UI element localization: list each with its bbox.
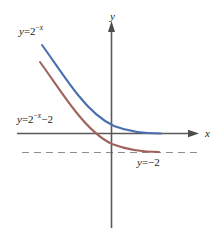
blue-label-exponent: −x [36, 23, 44, 32]
asymptote-equation-label: y=−2 [137, 157, 160, 168]
exponential-function-graph: y=2−x y=2−x−2 y=−2 y x [0, 0, 221, 228]
red-curve-equation-label: y=2−x−2 [17, 114, 53, 125]
y-axis-arrowhead [108, 21, 115, 32]
blue-label-exponent-var: x [40, 23, 43, 32]
asymptote-label-value: −2 [148, 156, 160, 168]
red-label-constant: 2 [47, 113, 53, 125]
y-axis-label: y [110, 11, 115, 22]
curve-red-exponential-shifted [40, 62, 159, 152]
blue-curve-equation-label: y=2−x [19, 26, 43, 37]
x-axis-arrowhead [188, 130, 199, 137]
x-axis-label: x [205, 128, 210, 139]
